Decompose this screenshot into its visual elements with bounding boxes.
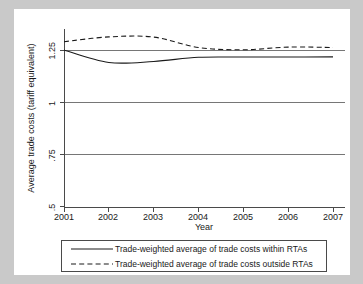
y-tick-mark-0-75 xyxy=(60,154,64,155)
chart-legend: Trade-weighted average of trade costs wi… xyxy=(61,240,327,272)
figure-canvas: Average trade costs (tariff equivalent) … xyxy=(0,0,363,284)
y-tick-label-1-00: 1 xyxy=(48,96,57,112)
gridline-1-25 xyxy=(65,50,345,51)
gridline-0-75 xyxy=(65,154,345,155)
x-axis-title: Year xyxy=(64,222,344,233)
legend-item-within-rtas: Trade-weighted average of trade costs wi… xyxy=(62,241,326,256)
x-tick-label-2001: 2001 xyxy=(44,212,84,222)
y-tick-mark-1-25 xyxy=(60,50,64,51)
y-axis-title-wrapper: Average trade costs (tariff equivalent) xyxy=(26,29,37,207)
plot-area xyxy=(64,29,345,207)
x-tick-label-2006: 2006 xyxy=(268,212,308,222)
legend-swatch-dashed-line-icon xyxy=(69,259,115,269)
gridline-1-00 xyxy=(65,102,345,103)
x-axis-line xyxy=(64,207,345,208)
y-tick-label-0-75: .75 xyxy=(48,148,57,164)
x-tick-label-2004: 2004 xyxy=(178,212,218,222)
y-axis-title: Average trade costs (tariff equivalent) xyxy=(26,29,37,207)
x-tick-label-2005: 2005 xyxy=(223,212,263,222)
x-tick-label-2007: 2007 xyxy=(313,212,353,222)
legend-label-within-rtas: Trade-weighted average of trade costs wi… xyxy=(115,244,307,254)
legend-item-outside-rtas: Trade-weighted average of trade costs ou… xyxy=(62,256,326,271)
legend-swatch-solid-line-icon xyxy=(69,244,115,254)
chart-card: Average trade costs (tariff equivalent) … xyxy=(14,9,350,275)
x-tick-label-2002: 2002 xyxy=(88,212,128,222)
y-tick-mark-1-00 xyxy=(60,102,64,103)
y-tick-label-1-25: 1.25 xyxy=(48,44,57,60)
x-tick-label-2003: 2003 xyxy=(133,212,173,222)
y-tick-mark-0-50 xyxy=(60,206,64,207)
legend-label-outside-rtas: Trade-weighted average of trade costs ou… xyxy=(115,259,313,269)
